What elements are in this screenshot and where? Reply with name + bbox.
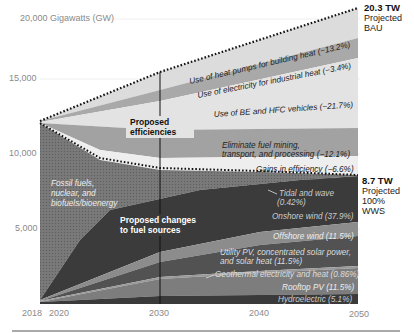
energy-transition-chart: 20,000 Gigawatts (GW) 15,000 10,000 5,00… (0, 0, 414, 333)
label-utility-pv-2: and solar heat (11.5%) (220, 257, 302, 266)
fossil-label-2: nuclear, and (51, 189, 96, 198)
label-utility-pv-1: Utility PV, concentrated solar power, (220, 248, 351, 257)
label-tidal-1: Tidal and wave (279, 189, 334, 198)
wws-value: 8.7 TW (362, 175, 393, 186)
label-efficiency-gains: Gains in efficiency (−6.6%) (256, 165, 354, 174)
fossil-label-3: biofuels/bioenergy (51, 199, 118, 208)
y-tick-20000: 20,000 Gigawatts (GW) (20, 13, 114, 23)
label-offshore-wind: Offshore wind (11.5%) (273, 232, 354, 241)
label-geothermal: Geothermal electricity and heat (0.86%) (215, 270, 360, 279)
y-tick-10000: 10,000 (9, 148, 37, 158)
label-rooftop-pv: Rooftop PV (11.5%) (282, 283, 354, 292)
y-tick-5000: 5,000 (15, 223, 38, 233)
bau-label-bau: BAU (364, 23, 383, 33)
wws-label-projected: Projected (362, 186, 400, 196)
y-tick-15000: 15,000 (9, 73, 37, 83)
x-tick-2020: 2020 (49, 308, 69, 318)
x-tick-2018: 2018 (22, 308, 42, 318)
efficiencies-heading-1: Proposed (130, 117, 169, 127)
label-onshore-wind: Onshore wind (37.9%) (272, 212, 354, 221)
label-hydroelectric: Hydroelectric (5.1%) (278, 295, 352, 304)
label-fuel-mining-2: transport, and processing (−12.1%) (222, 150, 350, 159)
x-tick-2030: 2030 (149, 308, 169, 318)
fuel-heading-1: Proposed changes (120, 215, 196, 225)
bau-label-projected: Projected (364, 13, 402, 23)
bau-value: 20.3 TW (364, 2, 400, 13)
label-fuel-mining-1: Eliminate fuel mining, (222, 141, 300, 150)
x-tick-2040: 2040 (249, 308, 269, 318)
wws-label-wws: WWS (362, 206, 385, 216)
x-tick-2050: 2050 (349, 309, 369, 319)
label-tidal-2: (0.42%) (277, 198, 306, 207)
fuel-heading-2: to fuel sources (120, 225, 181, 235)
efficiencies-heading-2: efficiencies (130, 127, 177, 137)
wws-label-100: 100% (362, 196, 385, 206)
fossil-label-1: Fossil fuels, (51, 179, 94, 188)
